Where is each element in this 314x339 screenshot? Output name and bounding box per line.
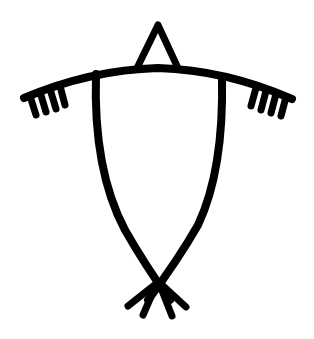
base-strokes-icon [128,283,186,316]
pictograph-canvas [0,0,314,339]
body-lines-icon [96,74,222,300]
triangle-top-icon [138,25,177,66]
pictograph-figure [0,0,314,339]
